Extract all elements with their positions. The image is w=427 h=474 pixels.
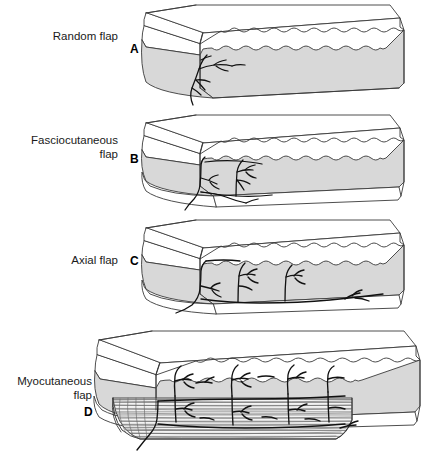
- panel-c-label: Axial flap: [0, 254, 118, 268]
- panel-d-letter: D: [84, 405, 93, 419]
- panel-a-block: [142, 5, 405, 98]
- panel-d-label: Myocutaneous flap: [0, 375, 92, 402]
- panel-b-block: [142, 115, 405, 207]
- panel-b-label: Fasciocutaneous flap: [0, 134, 118, 161]
- flap-diagram-svg: [0, 0, 427, 474]
- panel-c-letter: C: [130, 254, 139, 268]
- panel-a-label: Random flap: [0, 30, 118, 44]
- panel-a-letter: A: [130, 42, 139, 56]
- panel-b-letter: B: [130, 152, 139, 166]
- panel-d-block: [94, 331, 420, 439]
- flap-types-figure: Random flap A Fasciocutaneous flap B Axi…: [0, 0, 427, 474]
